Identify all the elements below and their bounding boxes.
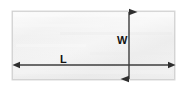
rectangle-shape	[12, 11, 175, 80]
width-dimension-label: W	[117, 35, 127, 46]
diagram-canvas	[0, 0, 187, 92]
rectangle-dimension-diagram: L W	[0, 0, 187, 92]
length-dimension-label: L	[60, 54, 67, 65]
